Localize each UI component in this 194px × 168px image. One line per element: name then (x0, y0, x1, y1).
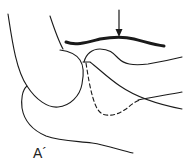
left-outer-contour (8, 14, 83, 107)
lower-right-line (138, 92, 182, 100)
middle-descending-line (83, 62, 182, 109)
anatomical-line-diagram: A´ (0, 0, 194, 168)
arrow-head-icon (116, 29, 123, 37)
upper-right-contour (84, 49, 182, 65)
upper-inner-stroke (50, 16, 63, 49)
thick-contour-bar (66, 37, 164, 46)
dashed-hidden-contour (86, 63, 140, 115)
diagram-svg (0, 0, 194, 168)
figure-label: A´ (33, 146, 47, 160)
